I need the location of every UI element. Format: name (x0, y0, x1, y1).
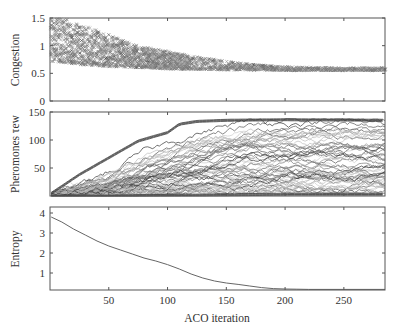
pheromones-ylabel: Pheromones τew (9, 114, 21, 192)
pheromones-y-ticks: 50100150 (29, 106, 386, 174)
y-tick-label: 1.5 (31, 12, 45, 24)
y-tick-label: 100 (29, 134, 46, 146)
pheromones-axes-frame (50, 112, 385, 196)
x-tick-label: 50 (103, 294, 115, 306)
y-tick-label: 150 (29, 106, 46, 118)
y-tick-label: 2 (40, 247, 46, 259)
y-tick-label: 4 (40, 207, 46, 219)
x-axis-label: ACO iteration (184, 312, 250, 324)
y-tick-label: 1 (40, 40, 46, 52)
x-tick-label: 200 (277, 294, 294, 306)
entropy-line (51, 217, 385, 289)
pheromone-lines (51, 119, 385, 196)
x-tick-label: 150 (218, 294, 235, 306)
congestion-panel: 00.511.5 Congestion (9, 12, 387, 107)
entropy-ylabel: Entropy (9, 230, 22, 267)
congestion-scatter (49, 18, 387, 72)
entropy-axes-frame (50, 207, 385, 290)
figure: 00.511.5 Congestion 50100150 Pheromones … (0, 0, 402, 336)
congestion-ylabel: Congestion (9, 34, 22, 87)
y-tick-label: 50 (34, 162, 46, 174)
x-tick-label: 250 (336, 294, 353, 306)
pheromones-panel: 50100150 Pheromones τew (9, 106, 385, 196)
y-tick-label: 0.5 (31, 67, 45, 79)
y-tick-label: 3 (40, 227, 46, 239)
y-tick-label: 1 (40, 267, 46, 279)
entropy-y-ticks: 1234 (40, 207, 386, 279)
x-tick-label: 100 (159, 294, 176, 306)
